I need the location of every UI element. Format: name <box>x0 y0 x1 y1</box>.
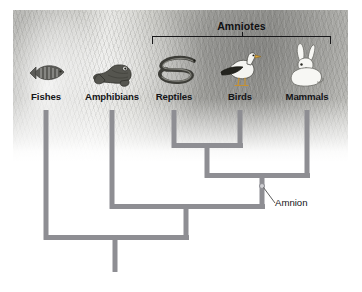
branch-fishes <box>44 110 49 240</box>
taxon-label-birds: Birds <box>228 91 252 102</box>
taxon-label-fishes: Fishes <box>31 91 61 102</box>
branch-amphibians <box>110 110 115 209</box>
taxon-label-reptiles: Reptiles <box>156 91 193 102</box>
amniotes-label: Amniotes <box>152 20 331 32</box>
frog-icon <box>88 56 136 88</box>
cladogram-figure: Amniotes <box>0 0 362 292</box>
bird-icon <box>217 48 263 88</box>
taxon-label-amphibians: Amphibians <box>85 91 139 102</box>
node-amniote-crossbar <box>205 173 310 178</box>
branch-root-stem <box>113 235 118 272</box>
taxon-label-mammals: Mammals <box>285 91 328 102</box>
amnion-label: Amnion <box>275 197 308 208</box>
branch-mammals <box>305 110 310 178</box>
amniotes-bracket-tick <box>242 32 244 37</box>
node-tetrapod-stem <box>184 204 189 238</box>
snake-icon <box>148 54 200 88</box>
fish-icon <box>23 60 69 86</box>
rabbit-icon <box>284 42 330 88</box>
